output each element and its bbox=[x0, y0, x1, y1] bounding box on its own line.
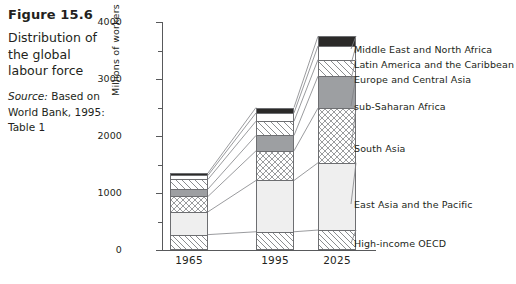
y-tick-minor bbox=[158, 165, 162, 166]
x-axis-line bbox=[162, 250, 376, 251]
x-tick-label: 1965 bbox=[159, 254, 219, 266]
y-tick-minor bbox=[158, 51, 162, 52]
segment-1965-4 bbox=[171, 180, 207, 190]
chart-legend: Middle East and North AfricaLatin Americ… bbox=[354, 0, 516, 284]
legend-item-2: Europe and Central Asia bbox=[354, 74, 471, 85]
legend-item-1: Latin America and the Caribbean bbox=[354, 59, 514, 70]
y-tick-label: 3000 bbox=[82, 73, 122, 84]
segment-1995-2 bbox=[257, 152, 293, 182]
source-label: Source: bbox=[8, 90, 48, 102]
y-axis-line bbox=[162, 22, 163, 251]
legend-item-6: High-income OECD bbox=[354, 238, 446, 249]
legend-item-4: South Asia bbox=[354, 143, 406, 154]
segment-2025-0 bbox=[319, 231, 355, 250]
segment-1995-5 bbox=[257, 114, 293, 122]
y-tick-label: 0 bbox=[82, 244, 122, 255]
chart-plot-area: Millions of workers 01000200030004000 19… bbox=[126, 0, 376, 284]
segment-2025-6 bbox=[319, 37, 355, 47]
bar-2025 bbox=[318, 36, 356, 250]
segment-2025-2 bbox=[319, 109, 355, 164]
legend-item-3: sub-Saharan Africa bbox=[354, 101, 446, 112]
segment-2025-5 bbox=[319, 47, 355, 61]
segment-1965-3 bbox=[171, 190, 207, 197]
bar-1965 bbox=[170, 173, 208, 250]
y-tick-minor bbox=[158, 222, 162, 223]
figure-page: Figure 15.6 Distribution of the global l… bbox=[0, 0, 516, 284]
y-tick-label: 2000 bbox=[82, 130, 122, 141]
legend-item-0: Middle East and North Africa bbox=[354, 44, 492, 55]
legend-item-5: East Asia and the Pacific bbox=[354, 199, 473, 210]
y-tick-major bbox=[156, 22, 162, 23]
segment-1965-0 bbox=[171, 236, 207, 250]
figure-source: Source: Based on World Bank, 1995: Table… bbox=[8, 89, 108, 136]
y-tick-major bbox=[156, 250, 162, 251]
y-tick-major bbox=[156, 136, 162, 137]
segment-2025-1 bbox=[319, 164, 355, 231]
segment-1995-1 bbox=[257, 181, 293, 232]
y-tick-major bbox=[156, 79, 162, 80]
y-tick-minor bbox=[158, 108, 162, 109]
segment-1995-4 bbox=[257, 122, 293, 136]
segment-1965-1 bbox=[171, 213, 207, 236]
segment-2025-3 bbox=[319, 77, 355, 109]
y-tick-label: 1000 bbox=[82, 187, 122, 198]
y-tick-label: 4000 bbox=[82, 16, 122, 27]
segment-1995-0 bbox=[257, 233, 293, 250]
segment-2025-4 bbox=[319, 61, 355, 78]
bar-1995 bbox=[256, 108, 294, 251]
x-tick-label: 1995 bbox=[245, 254, 305, 266]
y-tick-major bbox=[156, 193, 162, 194]
segment-1995-3 bbox=[257, 136, 293, 151]
segment-1965-2 bbox=[171, 197, 207, 212]
